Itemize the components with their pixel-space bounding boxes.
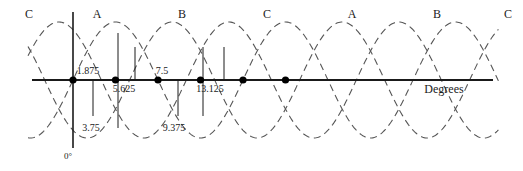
phase-label-c-1: C [25, 7, 33, 21]
phase-label-a-5: A [348, 7, 357, 21]
sine-wave-figure: CABCABC1.8755.6257.513.1253.759.375Degre… [0, 0, 523, 171]
value-label-9-375: 9.375 [163, 122, 186, 133]
value-label-1-875: 1.875 [77, 65, 100, 76]
value-label-13-125: 13.125 [196, 83, 224, 94]
zero-crossing-marker-1 [69, 76, 76, 83]
phase-label-c-4: C [263, 7, 271, 21]
value-label-5-625: 5.625 [113, 83, 136, 94]
zero-crossing-marker-5 [239, 76, 246, 83]
zero-crossing-marker-6 [282, 76, 289, 83]
phase-label-c-7: C [504, 7, 512, 21]
phase-label-b-3: B [178, 7, 186, 21]
three-phase-sine-diagram: CABCABC1.8755.6257.513.1253.759.375Degre… [0, 0, 523, 171]
value-label-3-75: 3.75 [82, 122, 100, 133]
phase-label-b-6: B [433, 7, 441, 21]
x-axis-label: Degrees [424, 82, 464, 96]
phase-label-a-2: A [93, 7, 102, 21]
origin-label: 0° [64, 151, 73, 161]
zero-crossing-marker-3 [154, 76, 161, 83]
value-label-7-5: 7.5 [156, 65, 169, 76]
